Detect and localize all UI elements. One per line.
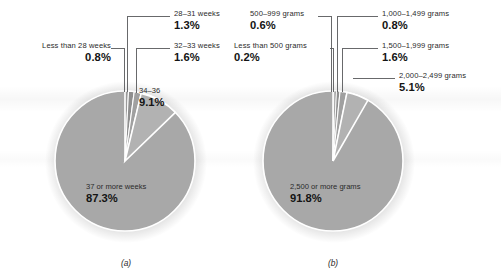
callout-b-500-999-grams-category: 500–999 grams — [250, 9, 304, 19]
callout-b-2000-2499-grams: 2,000–2,499 grams 5.1% — [399, 71, 466, 94]
label-a-34-36-weeks-category: 34–36 — [139, 86, 165, 96]
pie-a-leader-lines — [111, 16, 170, 93]
callout-b-less-than-500-grams-category: Less than 500 grams — [234, 41, 307, 51]
label-a-34-36-weeks: 34–36 9.1% — [139, 86, 165, 109]
pie-b-leader-1000-1499 — [338, 16, 379, 92]
label-a-37-or-more-weeks: 37 or more weeks 87.3% — [86, 182, 146, 205]
callout-b-1000-1499-grams: 1,000–1,499 grams 0.8% — [382, 9, 449, 32]
callout-b-1500-1999-grams-percent: 1.6% — [382, 51, 449, 64]
callout-a-28-31-weeks-percent: 1.3% — [174, 19, 220, 32]
callout-a-32-33-weeks: 32–33 weeks 1.6% — [174, 41, 220, 64]
callout-b-1500-1999-grams-category: 1,500–1,999 grams — [382, 41, 449, 51]
pie-b-leader-500-999 — [318, 16, 331, 92]
callout-a-32-33-weeks-category: 32–33 weeks — [174, 41, 220, 51]
callout-a-28-31-weeks: 28–31 weeks 1.3% — [174, 9, 220, 32]
callout-a-28-31-weeks-category: 28–31 weeks — [174, 9, 220, 19]
label-b-2500-or-more-grams-category: 2,500 or more grams — [290, 182, 360, 192]
caption-a: (a) — [106, 258, 146, 268]
callout-b-less-than-500-grams: Less than 500 grams 0.2% — [234, 41, 307, 64]
callout-b-500-999-grams: 500–999 grams 0.6% — [250, 9, 304, 32]
pie-figure-pair: Less than 28 weeks 0.8% 28–31 weeks 1.3%… — [0, 0, 501, 280]
pie-b-slices — [263, 91, 403, 231]
callout-a-less-than-28-weeks: Less than 28 weeks 0.8% — [0, 41, 111, 64]
label-a-37-or-more-weeks-category: 37 or more weeks — [86, 182, 146, 192]
label-a-34-36-weeks-percent: 9.1% — [139, 96, 165, 109]
callout-a-less-than-28-weeks-percent: 0.8% — [0, 51, 111, 64]
label-b-2500-or-more-grams: 2,500 or more grams 91.8% — [290, 182, 360, 205]
caption-b: (b) — [313, 258, 353, 268]
callout-b-1000-1499-grams-category: 1,000–1,499 grams — [382, 9, 449, 19]
callout-b-2000-2499-grams-category: 2,000–2,499 grams — [399, 71, 466, 81]
label-b-2500-or-more-grams-percent: 91.8% — [290, 192, 360, 205]
callout-b-500-999-grams-percent: 0.6% — [250, 19, 304, 32]
label-a-37-or-more-weeks-percent: 87.3% — [86, 192, 146, 205]
callout-a-less-than-28-weeks-category: Less than 28 weeks — [0, 41, 111, 51]
callout-a-32-33-weeks-percent: 1.6% — [174, 51, 220, 64]
callout-b-less-than-500-grams-percent: 0.2% — [234, 51, 307, 64]
pie-a-slices — [55, 91, 195, 231]
callout-b-2000-2499-grams-percent: 5.1% — [399, 81, 466, 94]
pie-a-leader-28-31 — [128, 16, 170, 92]
callout-b-1500-1999-grams: 1,500–1,999 grams 1.6% — [382, 41, 449, 64]
callout-b-1000-1499-grams-percent: 0.8% — [382, 19, 449, 32]
